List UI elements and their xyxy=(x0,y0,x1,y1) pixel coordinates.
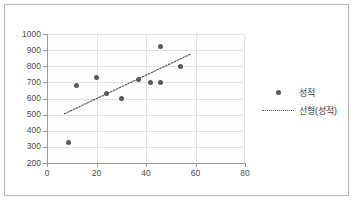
y-tick-label: 400 xyxy=(27,126,41,135)
x-tick-label: 0 xyxy=(37,169,57,178)
x-tick-label: 40 xyxy=(136,169,156,178)
legend-dotted-line-icon xyxy=(261,110,295,111)
y-tick-label: 300 xyxy=(27,142,41,151)
legend-label-linear-trend: 선형(성적) xyxy=(299,104,337,117)
y-tick-mark xyxy=(43,82,47,83)
y-tick-mark xyxy=(43,147,47,148)
y-tick-mark xyxy=(43,99,47,100)
legend-label-scores: 성적 xyxy=(299,86,315,99)
y-tick-mark xyxy=(43,131,47,132)
scatter-point xyxy=(94,75,99,80)
y-tick-label: 900 xyxy=(27,46,41,55)
x-tick-mark xyxy=(245,163,246,167)
x-tick-label: 20 xyxy=(87,169,107,178)
y-tick-mark xyxy=(43,50,47,51)
x-tick-label: 80 xyxy=(235,169,255,178)
legend-item-scores[interactable]: 성적 xyxy=(261,83,347,101)
x-tick-mark xyxy=(196,163,197,167)
gridline-vertical xyxy=(97,34,98,163)
x-tick-mark xyxy=(97,163,98,167)
scatter-point xyxy=(158,80,163,85)
y-tick-label: 700 xyxy=(27,78,41,87)
gridline-vertical xyxy=(146,34,147,163)
y-tick-label: 200 xyxy=(27,159,41,168)
chart-plot-wrapper: 2003004005006007008009001000 020406080 성… xyxy=(5,5,350,197)
scatter-point xyxy=(119,96,124,101)
legend-item-linear-trend[interactable]: 선형(성적) xyxy=(261,101,347,119)
gridline-vertical xyxy=(196,34,197,163)
chart-frame: 2003004005006007008009001000 020406080 성… xyxy=(4,4,349,196)
y-tick-mark xyxy=(43,66,47,67)
y-axis-line xyxy=(47,34,48,164)
y-tick-mark xyxy=(43,115,47,116)
y-tick-label: 1000 xyxy=(22,30,41,39)
y-tick-mark xyxy=(43,34,47,35)
gridline-vertical xyxy=(244,34,245,163)
y-tick-label: 800 xyxy=(27,62,41,71)
scatter-point xyxy=(74,83,79,88)
y-tick-label: 500 xyxy=(27,110,41,119)
scatter-point xyxy=(158,44,163,49)
x-tick-mark xyxy=(146,163,147,167)
chart-legend: 성적 선형(성적) xyxy=(261,83,347,119)
scatter-point xyxy=(148,80,153,85)
scatter-point xyxy=(178,64,183,69)
scatter-point xyxy=(136,77,141,82)
scatter-point xyxy=(66,140,71,145)
plot-area xyxy=(47,34,245,163)
y-tick-label: 600 xyxy=(27,94,41,103)
x-tick-label: 60 xyxy=(186,169,206,178)
legend-marker-dot-icon xyxy=(261,90,295,95)
scatter-point xyxy=(104,91,109,96)
x-tick-mark xyxy=(47,163,48,167)
